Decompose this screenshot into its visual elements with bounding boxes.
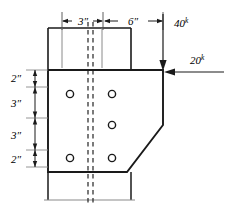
load-arrowhead-20k [164, 68, 175, 75]
dim-label-2in-lower: 2″ [11, 153, 22, 165]
arrowhead-3in-right [97, 19, 103, 24]
bolt-hole-right-mid [108, 121, 115, 128]
arrowhead-2in-lower-bottom [33, 161, 37, 167]
bolt-hole-group [66, 90, 115, 161]
applied-loads-group: 40k 20k [159, 14, 224, 76]
lower-column [44, 172, 135, 200]
dim-label-6in: 6″ [128, 15, 139, 27]
centerline-group [88, 22, 93, 206]
upper-column [48, 28, 131, 70]
top-dimension-group: 3″ 6″ [62, 12, 163, 30]
arrowhead-6in-left [104, 19, 110, 24]
bolt-hole-left-top [66, 90, 73, 97]
gusset-plate-path [48, 70, 163, 172]
arrowhead-2in-lower-top [33, 150, 37, 156]
load-unit-40k: k [185, 16, 189, 25]
dim-label-3in-lower: 3″ [10, 129, 22, 141]
bolt-hole-right-top [108, 90, 115, 97]
load-label-40k: 40k [174, 16, 189, 29]
bolt-hole-right-bottom [108, 154, 115, 161]
arrowhead-3in-lower-top [33, 118, 37, 125]
arrowhead-6in-right [157, 19, 163, 24]
arrowhead-3in-upper-bottom [33, 112, 37, 119]
dim-label-3in-upper: 3″ [10, 97, 22, 109]
dim-label-2in-upper: 2″ [11, 72, 22, 84]
left-dimension-group: 2″ 3″ 3″ 2″ [10, 70, 48, 167]
arrowhead-2in-upper-bottom [33, 81, 37, 87]
arrowhead-3in-left [62, 19, 68, 24]
bracket-diagram-figure: 3″ 6″ 2″ 3″ [0, 0, 230, 218]
diagram-canvas: 3″ 6″ 2″ 3″ [0, 0, 230, 218]
arrowhead-2in-upper-top [33, 70, 37, 76]
arrowhead-3in-lower-bottom [33, 144, 37, 151]
dim-label-3in: 3″ [77, 15, 89, 27]
load-value-20k: 20 [190, 54, 202, 66]
load-unit-20k: k [201, 53, 205, 62]
load-value-40k: 40 [174, 17, 186, 29]
gusset-plate-outline [48, 70, 163, 172]
arrowhead-3in-upper-top [33, 87, 37, 94]
load-label-20k: 20k [190, 53, 205, 66]
bolt-hole-left-bottom [66, 154, 73, 161]
